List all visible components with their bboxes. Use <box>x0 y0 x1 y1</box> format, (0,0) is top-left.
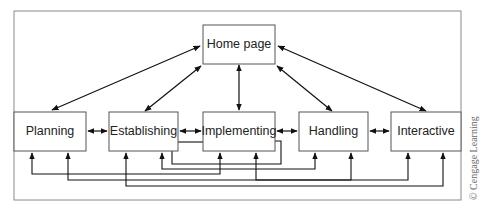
edge-home-handling <box>277 66 332 111</box>
node-handling-label: Handling <box>309 124 358 138</box>
node-implementing-label: Implementing <box>201 124 276 138</box>
edge-home-establishing <box>145 66 201 111</box>
copyright-credit: © Cengage Learning <box>468 116 479 200</box>
node-implementing: Implementing <box>201 112 276 151</box>
node-home-label: Home page <box>207 37 272 51</box>
node-interactive-label: Interactive <box>397 124 455 138</box>
node-home: Home page <box>203 25 275 64</box>
edge-implementing-interactive-bottom <box>256 153 408 180</box>
node-interactive: Interactive <box>391 112 461 151</box>
node-handling: Handling <box>299 112 368 151</box>
node-establishing-label: Establishing <box>110 124 177 138</box>
node-planning: Planning <box>14 112 86 151</box>
node-planning-label: Planning <box>26 124 75 138</box>
edge-establishing-handling-bottom <box>162 153 315 169</box>
navigation-diagram: Home page Planning Establishing Implemen… <box>0 0 485 213</box>
edge-home-interactive <box>278 46 426 111</box>
edge-planning-handling-bottom <box>68 153 351 180</box>
edge-home-planning <box>52 46 200 110</box>
node-establishing: Establishing <box>109 112 178 151</box>
